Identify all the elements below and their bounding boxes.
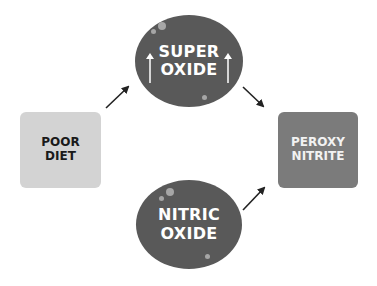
highlight-dot xyxy=(166,188,174,196)
node-label-line2: OXIDE xyxy=(160,225,217,243)
up-arrow-icon xyxy=(145,53,155,83)
highlight-dot xyxy=(159,196,164,201)
node-nitric-oxide: NITRIC OXIDE xyxy=(136,180,242,269)
node-peroxynitrite: PEROXY NITRITE xyxy=(278,112,358,188)
arrow-nitricoxide-to-peroxynitrite xyxy=(243,188,264,210)
arrow-superoxide-to-peroxynitrite xyxy=(243,87,263,106)
node-superoxide: SUPER OXIDE xyxy=(135,15,243,107)
highlight-dot xyxy=(151,29,156,34)
highlight-dot xyxy=(158,22,166,30)
highlight-dot xyxy=(205,254,210,259)
up-arrow-icon xyxy=(223,53,233,83)
highlight-dot xyxy=(202,95,207,100)
node-label-line2: OXIDE xyxy=(160,61,217,79)
arrow-poordiet-to-superoxide xyxy=(106,87,128,108)
node-label-line2: DIET xyxy=(45,150,76,164)
node-label-line1: SUPER xyxy=(159,43,220,61)
node-poor-diet: POOR DIET xyxy=(20,112,101,188)
node-label-line1: NITRIC xyxy=(158,206,220,224)
node-label-line2: NITRITE xyxy=(292,150,345,164)
node-label-line1: POOR xyxy=(41,136,79,150)
node-label-line1: PEROXY xyxy=(291,136,345,150)
